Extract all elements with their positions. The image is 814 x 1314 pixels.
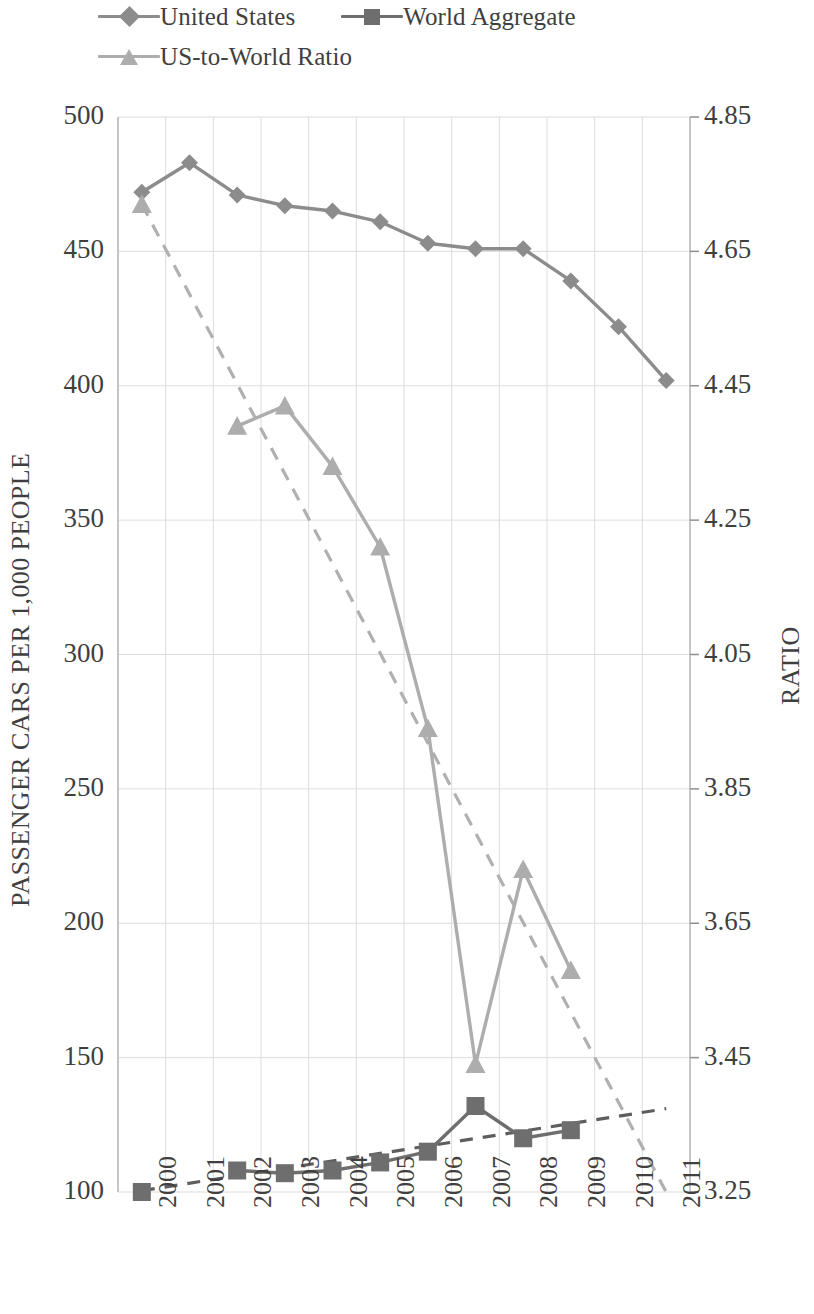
right-tick-value: 4.25 bbox=[704, 505, 751, 532]
left-tick-value: 100 bbox=[0, 1177, 104, 1204]
right-axis-title: RATIO bbox=[778, 626, 804, 705]
data-point-diamond bbox=[372, 213, 389, 230]
right-tick-value: 3.85 bbox=[704, 774, 751, 801]
x-tick-label: 2008 bbox=[536, 1156, 562, 1208]
x-tick-label: 2004 bbox=[346, 1156, 372, 1208]
plot-area bbox=[0, 0, 814, 1314]
left-tick-value: 400 bbox=[0, 371, 104, 398]
x-tick-label: 2006 bbox=[441, 1156, 467, 1208]
plot-svg bbox=[0, 0, 814, 1314]
chart-root: United States World Aggregate US-to-Worl… bbox=[0, 0, 814, 1314]
data-point-square bbox=[371, 1153, 389, 1171]
left-tick-value: 450 bbox=[0, 236, 104, 263]
data-point-square bbox=[276, 1164, 294, 1182]
data-point-square bbox=[324, 1162, 342, 1180]
data-point-square bbox=[228, 1162, 246, 1180]
right-tick-value: 4.45 bbox=[704, 371, 751, 398]
left-tick-value: 500 bbox=[0, 102, 104, 129]
x-tick-label: 2010 bbox=[632, 1156, 658, 1208]
x-tick-label: 2002 bbox=[250, 1156, 276, 1208]
right-tick-value: 4.05 bbox=[704, 640, 751, 667]
data-point-triangle bbox=[227, 416, 247, 435]
data-point-triangle bbox=[370, 537, 390, 556]
left-axis-title: PASSENGER CARS PER 1,000 PEOPLE bbox=[8, 452, 34, 906]
x-tick-label: 2005 bbox=[393, 1156, 419, 1208]
x-tick-label: 2000 bbox=[155, 1156, 181, 1208]
x-tick-label: 2001 bbox=[203, 1156, 229, 1208]
data-point-square bbox=[562, 1121, 580, 1139]
data-point-triangle bbox=[561, 960, 581, 979]
left-tick-value: 150 bbox=[0, 1043, 104, 1070]
left-tick-value: 200 bbox=[0, 908, 104, 935]
x-tick-label: 2003 bbox=[298, 1156, 324, 1208]
right-tick-value: 4.65 bbox=[704, 236, 751, 263]
right-tick-value: 3.65 bbox=[704, 908, 751, 935]
x-tick-label: 2007 bbox=[489, 1156, 515, 1208]
data-point-diamond bbox=[276, 197, 293, 214]
data-point-triangle bbox=[418, 718, 438, 737]
data-point-triangle bbox=[513, 860, 533, 879]
data-point-triangle bbox=[275, 396, 295, 415]
x-tick-label: 2009 bbox=[584, 1156, 610, 1208]
x-tick-label: 2011 bbox=[679, 1157, 705, 1208]
data-point-square bbox=[419, 1143, 437, 1161]
data-point-diamond bbox=[467, 240, 484, 257]
data-point-diamond bbox=[419, 235, 436, 252]
data-point-square bbox=[514, 1129, 532, 1147]
data-point-square bbox=[133, 1183, 151, 1201]
data-point-triangle bbox=[132, 194, 152, 213]
right-tick-value: 3.25 bbox=[704, 1177, 751, 1204]
right-tick-value: 3.45 bbox=[704, 1043, 751, 1070]
data-point-square bbox=[467, 1097, 485, 1115]
right-tick-value: 4.85 bbox=[704, 102, 751, 129]
data-point-diamond bbox=[324, 203, 341, 220]
